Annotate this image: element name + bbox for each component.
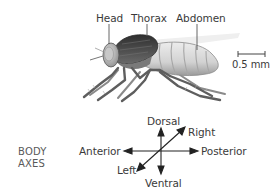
label-ventral: Ventral (145, 177, 182, 189)
dorsal-arrowhead (158, 128, 164, 136)
posterior-arrowhead (190, 148, 198, 154)
label-thorax: Thorax (131, 12, 167, 24)
label-head: Head (96, 12, 123, 24)
scale-bar-label: 0.5 mm (232, 59, 270, 71)
ventral-arrowhead (158, 166, 164, 174)
label-dorsal: Dorsal (147, 115, 180, 127)
label-posterior: Posterior (201, 145, 247, 157)
label-abdomen: Abdomen (176, 12, 226, 24)
anterior-arrowhead (124, 148, 132, 154)
body-axes-title-line1: BODY (18, 146, 47, 158)
leg-hairs (88, 85, 207, 94)
label-left: Left (117, 164, 136, 176)
scale-bar (238, 51, 265, 57)
head (90, 43, 119, 67)
body-axes-title-line2: AXES (18, 158, 47, 170)
label-anterior: Anterior (79, 145, 121, 157)
label-right: Right (188, 126, 215, 138)
body-axes-title: BODY AXES (18, 146, 47, 169)
